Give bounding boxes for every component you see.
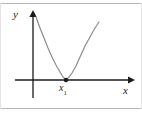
- root-label-subscript: 1: [63, 89, 67, 97]
- parabola-plot: [0, 0, 142, 113]
- y-axis-arrowhead: [29, 10, 36, 17]
- x-axis-label: x: [123, 85, 128, 96]
- root-label: x1: [59, 83, 67, 96]
- parabola-curve: [36, 17, 99, 80]
- y-axis-label: y: [13, 9, 18, 20]
- x-axis-arrowhead: [128, 76, 135, 83]
- figure-frame: y x x1: [0, 0, 142, 113]
- root-point-marker: [64, 78, 68, 82]
